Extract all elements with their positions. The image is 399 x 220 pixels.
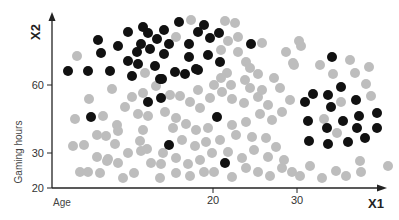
data-point-cluster_a <box>215 57 225 67</box>
data-point-cluster_b <box>135 136 145 146</box>
data-point-cluster_a <box>327 52 337 62</box>
data-point-cluster_a <box>143 97 153 107</box>
data-point-cluster_b <box>201 137 211 147</box>
data-point-cluster_b <box>84 94 94 104</box>
data-point-cluster_b <box>209 167 219 177</box>
data-point-cluster_a <box>96 48 106 58</box>
data-point-cluster_b <box>118 173 128 183</box>
data-point-cluster_a <box>303 116 313 126</box>
data-point-cluster_b <box>255 109 265 119</box>
y-tick-label: 60 <box>32 79 44 91</box>
data-point-cluster_a <box>351 95 361 105</box>
data-point-cluster_a <box>308 89 318 99</box>
data-point-cluster_b <box>237 153 247 163</box>
data-point-cluster_b <box>98 111 108 121</box>
data-point-cluster_b <box>68 141 78 151</box>
data-point-cluster_b <box>217 87 227 97</box>
x-axis-arrow-icon <box>377 185 387 192</box>
data-point-cluster_b <box>92 152 102 162</box>
data-point-cluster_b <box>133 109 143 119</box>
y-axis-arrow-icon <box>49 12 56 21</box>
data-point-cluster_b <box>257 38 267 48</box>
data-point-cluster_b <box>281 47 291 57</box>
data-point-cluster_b <box>247 132 257 142</box>
data-point-cluster_b <box>171 153 181 163</box>
data-point-cluster_a <box>83 66 93 76</box>
data-point-cluster_b <box>364 62 374 72</box>
data-point-cluster_b <box>227 172 237 182</box>
data-point-cluster_b <box>138 88 148 98</box>
data-point-cluster_a <box>212 112 222 122</box>
data-point-cluster_b <box>160 107 170 117</box>
data-point-cluster_b <box>72 51 82 61</box>
data-point-cluster_b <box>95 168 105 178</box>
data-point-cluster_b <box>233 47 243 57</box>
data-point-cluster_b <box>383 161 393 171</box>
x-ticks: 2030 <box>207 188 303 206</box>
data-point-cluster_b <box>186 15 196 25</box>
data-point-cluster_b <box>171 113 181 123</box>
data-point-cluster_a <box>360 133 370 143</box>
data-point-cluster_a <box>184 52 194 62</box>
data-point-cluster_b <box>356 167 366 177</box>
data-point-cluster_b <box>366 91 376 101</box>
y-axis-description: Gaming hours <box>13 121 24 184</box>
data-point-cluster_b <box>168 123 178 133</box>
data-point-cluster_b <box>257 85 267 95</box>
data-point-cluster_b <box>331 166 341 176</box>
data-point-cluster_a <box>159 25 169 35</box>
data-point-cluster_b <box>190 141 200 151</box>
data-point-cluster_a <box>336 82 346 92</box>
data-point-cluster_a <box>123 27 133 37</box>
data-point-cluster_b <box>230 18 240 28</box>
data-point-cluster_b <box>181 119 191 129</box>
data-point-cluster_b <box>92 130 102 140</box>
data-point-cluster_a <box>372 108 382 118</box>
data-point-cluster_a <box>170 67 180 77</box>
data-point-cluster_a <box>105 66 115 76</box>
data-point-cluster_b <box>253 69 263 79</box>
data-point-cluster_b <box>177 135 187 145</box>
data-point-cluster_b <box>102 156 112 166</box>
data-point-cluster_b <box>107 84 117 94</box>
data-point-cluster_b <box>233 32 243 42</box>
data-point-cluster_b <box>305 161 315 171</box>
data-point-cluster_b <box>227 120 237 130</box>
data-point-cluster_b <box>345 55 355 65</box>
x-tick-label: 30 <box>291 194 303 206</box>
scatter-chart: 603020 2030 X2 X1 Gaming hours Age <box>0 0 399 220</box>
data-point-cluster_b <box>199 167 209 177</box>
data-point-cluster_b <box>261 133 271 143</box>
y-tick-label: 30 <box>32 147 44 159</box>
data-point-cluster_b <box>120 102 130 112</box>
data-point-cluster_b <box>155 173 165 183</box>
data-point-cluster_b <box>269 73 279 83</box>
x-axis <box>52 185 387 192</box>
data-point-cluster_a <box>246 39 256 49</box>
data-point-cluster_b <box>285 95 295 105</box>
data-point-cluster_b <box>231 130 241 140</box>
data-point-cluster_b <box>253 167 263 177</box>
data-point-cluster_b <box>223 147 233 157</box>
data-point-cluster_b <box>239 98 249 108</box>
data-point-cluster_b <box>220 16 230 26</box>
data-point-cluster_b <box>289 60 299 70</box>
data-point-cluster_b <box>277 163 287 173</box>
data-point-cluster_b <box>241 117 251 127</box>
data-point-cluster_a <box>145 44 155 54</box>
data-point-cluster_b <box>216 45 226 55</box>
data-point-cluster_b <box>332 128 342 138</box>
y-tick-label: 20 <box>32 182 44 194</box>
data-point-cluster_b <box>245 63 255 73</box>
data-point-cluster_b <box>175 91 185 101</box>
data-point-cluster_a <box>180 69 190 79</box>
data-point-cluster_b <box>275 83 285 93</box>
data-point-cluster_b <box>215 135 225 145</box>
data-point-cluster_a <box>205 33 215 43</box>
data-point-cluster_b <box>328 69 338 79</box>
data-point-cluster_b <box>138 125 148 135</box>
data-point-cluster_a <box>326 102 336 112</box>
data-point-cluster_b <box>336 97 346 107</box>
data-point-cluster_b <box>101 131 111 141</box>
data-point-cluster_b <box>165 90 175 100</box>
